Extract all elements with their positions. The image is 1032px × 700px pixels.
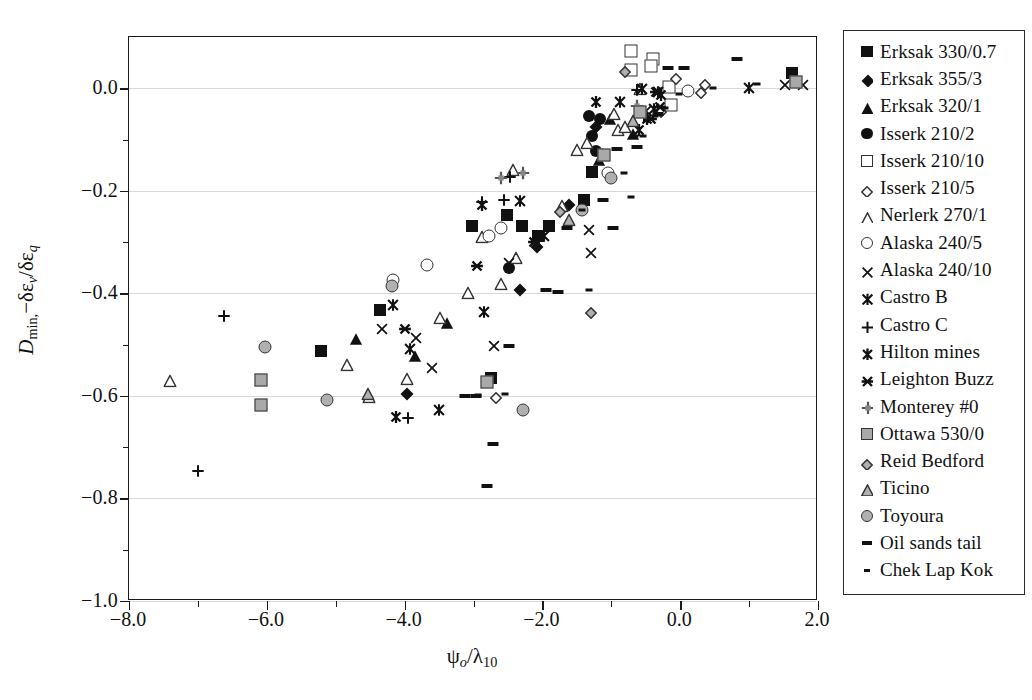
marker-dash-thin — [631, 134, 638, 137]
marker-circle-open — [495, 221, 508, 234]
legend-item-label: Ticino — [880, 477, 930, 499]
marker-x-heavy — [398, 322, 411, 335]
legend-item-castro-c[interactable]: Castro C — [844, 311, 1024, 338]
legend-item-label: Isserk 210/2 — [880, 123, 975, 145]
legend-item-leighton-buzz[interactable]: Leighton Buzz — [844, 366, 1024, 393]
marker-dash-thick — [862, 541, 872, 545]
legend-marker-circle-gray-icon — [854, 510, 880, 522]
x-tick-major — [129, 601, 130, 610]
legend-item-monterey-0[interactable]: Monterey #0 — [844, 393, 1024, 420]
marker-plus-thin — [497, 192, 510, 205]
marker-dash-thin — [675, 93, 682, 96]
marker-dash-thick — [504, 344, 515, 348]
legend-item-erksak-355-3[interactable]: Erksak 355/3 — [844, 65, 1024, 92]
marker-square-gray — [861, 428, 873, 440]
marker-triangle-open — [434, 311, 447, 324]
marker-dash-thick — [607, 226, 618, 230]
legend-marker-square-filled-icon — [854, 46, 880, 57]
marker-square-filled — [516, 220, 528, 232]
marker-plus-thin — [191, 464, 204, 477]
y-tick-label-group: 0.0−0.2−0.4−0.6−0.8−1.0 — [0, 36, 118, 600]
plot-area — [128, 36, 817, 600]
marker-circle-open — [482, 229, 495, 242]
legend-item-hilton-mines[interactable]: Hilton mines — [844, 338, 1024, 365]
marker-dash-thin — [620, 171, 627, 174]
marker-triangle-open — [401, 371, 414, 384]
marker-x-thin — [375, 322, 388, 335]
legend-marker-triangle-open-icon — [854, 209, 880, 221]
x-tick-minor — [749, 601, 750, 607]
marker-square-open — [645, 60, 658, 73]
legend-item-label: Toyoura — [880, 505, 944, 527]
marker-dash-thick — [561, 226, 572, 230]
legend-item-toyoura[interactable]: Toyoura — [844, 502, 1024, 529]
marker-dash-thin — [652, 115, 659, 118]
marker-x-bold — [477, 305, 490, 318]
y-tick-label: −0.8 — [81, 486, 118, 509]
marker-square-filled — [501, 209, 513, 221]
y-tick-label: −0.2 — [81, 178, 118, 201]
marker-dash-thick — [487, 442, 498, 446]
marker-square-filled — [861, 46, 872, 57]
marker-dash-thin — [754, 83, 761, 86]
marker-square-gray — [255, 398, 268, 411]
legend-item-ottawa-530-0[interactable]: Ottawa 530/0 — [844, 420, 1024, 447]
legend-item-alaska-240-5[interactable]: Alaska 240/5 — [844, 229, 1024, 256]
legend-marker-triangle-gray-icon — [854, 482, 880, 494]
legend-item-chek-lap-kok[interactable]: Chek Lap Kok — [844, 557, 1024, 584]
marker-triangle-open — [495, 277, 508, 290]
legend-item-reid-bedford[interactable]: Reid Bedford — [844, 447, 1024, 474]
marker-x-thin — [584, 246, 597, 259]
marker-dash-thin — [627, 195, 634, 198]
legend-item-isserk-210-10[interactable]: Isserk 210/10 — [844, 147, 1024, 174]
marker-triangle-open — [461, 286, 474, 299]
y-tick-label: 0.0 — [92, 76, 118, 99]
legend-item-ticino[interactable]: Ticino — [844, 475, 1024, 502]
legend-item-alaska-240-10[interactable]: Alaska 240/10 — [844, 256, 1024, 283]
chart-page: Dmin,−δεv/δεq ψo/λ10 0.0−0.2−0.4−0.6−0.8… — [0, 0, 1032, 700]
legend-item-isserk-210-5[interactable]: Isserk 210/5 — [844, 174, 1024, 201]
marker-plus-thin — [861, 319, 873, 331]
marker-x-star — [861, 346, 873, 358]
marker-x-bold — [386, 297, 399, 310]
marker-diamond-filled — [400, 387, 414, 401]
data-marker-group — [129, 37, 816, 599]
marker-diamond-filled — [513, 283, 527, 297]
marker-diamond-small-open — [490, 390, 502, 402]
y-tick-major — [120, 601, 129, 602]
legend-marker-square-open-icon — [854, 155, 880, 167]
legend-item-nerlerk-270-1[interactable]: Nerlerk 270/1 — [844, 202, 1024, 229]
legend-marker-triangle-filled-icon — [854, 100, 880, 112]
marker-circle-gray — [517, 404, 530, 417]
legend-item-label: Ottawa 530/0 — [880, 423, 984, 445]
marker-dash-thick — [662, 66, 673, 70]
legend-item-label: Alaska 240/5 — [880, 232, 982, 254]
x-tick-minor — [336, 601, 337, 607]
legend-item-castro-b[interactable]: Castro B — [844, 284, 1024, 311]
legend-item-erksak-330-0-7[interactable]: Erksak 330/0.7 — [844, 38, 1024, 65]
legend-item-label: Erksak 330/0.7 — [880, 41, 996, 63]
marker-diamond-small-open — [670, 71, 682, 83]
legend-item-label: Chek Lap Kok — [880, 559, 993, 581]
marker-dash-thick — [678, 66, 689, 70]
legend-item-oil-sands-tail[interactable]: Oil sands tail — [844, 529, 1024, 556]
marker-x-heavy — [650, 84, 663, 97]
legend-marker-circle-filled-icon — [854, 128, 880, 139]
x-tick-major — [818, 601, 819, 610]
marker-square-filled — [586, 166, 598, 178]
gridline-y — [129, 601, 816, 602]
marker-plus-square — [861, 400, 874, 413]
marker-triangle-open — [861, 209, 873, 221]
x-tick-label: −2.0 — [523, 608, 559, 631]
legend-item-isserk-210-2[interactable]: Isserk 210/2 — [844, 120, 1024, 147]
legend-item-erksak-320-1[interactable]: Erksak 320/1 — [844, 93, 1024, 120]
marker-dash-thin — [475, 393, 482, 396]
x-tick-major — [267, 601, 268, 610]
marker-dash-thick — [632, 145, 643, 149]
legend-item-label: Monterey #0 — [880, 396, 979, 418]
marker-x-heavy — [470, 259, 483, 272]
marker-circle-open — [861, 237, 873, 249]
legend-marker-diamond-filled-icon — [854, 73, 880, 86]
x-tick-label: 2.0 — [805, 608, 830, 631]
marker-triangle-gray — [362, 387, 375, 400]
